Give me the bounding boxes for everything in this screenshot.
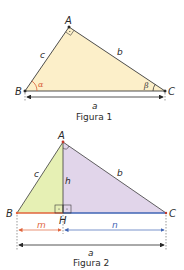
- vertex-label-b2: B: [6, 208, 13, 219]
- figure-2: A B C H c h b m n a Figura 2: [6, 130, 176, 268]
- vertex-label-c: C: [168, 86, 175, 97]
- angle-label-alpha: α: [38, 80, 44, 89]
- figure-2-caption: Figura 2: [73, 258, 109, 268]
- side-label-c2: c: [34, 169, 39, 179]
- vertex-label-c2: C: [169, 208, 176, 219]
- side-label-b2: b: [117, 168, 123, 178]
- vertex-c2-dot: [165, 212, 167, 214]
- vertex-label-h: H: [59, 215, 67, 226]
- side-label-m: m: [37, 220, 46, 230]
- vertex-label-a: A: [64, 15, 72, 26]
- vertex-a2-dot: [62, 141, 65, 144]
- side-label-n: n: [112, 220, 118, 230]
- vertex-label-a2: A: [57, 130, 65, 141]
- vertex-b-dot: [24, 90, 27, 93]
- side-label-b: b: [117, 47, 123, 57]
- vertex-b2-dot: [16, 212, 18, 214]
- side-label-c: c: [40, 50, 45, 60]
- side-label-h: h: [65, 176, 71, 186]
- side-label-a: a: [92, 101, 98, 111]
- figure-1-caption: Figura 1: [76, 112, 112, 122]
- figure-1: A B C c b a α β Figura 1: [15, 15, 175, 122]
- diagram-canvas: A B C c b a α β Figura 1: [0, 0, 184, 270]
- angle-label-beta: β: [143, 81, 149, 90]
- vertex-label-b: B: [15, 86, 22, 97]
- side-label-a2: a: [88, 248, 94, 258]
- vertex-c-dot: [164, 90, 167, 93]
